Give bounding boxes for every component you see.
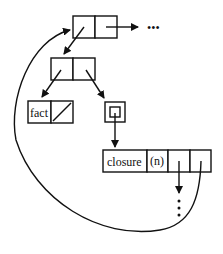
mid-cons-cell bbox=[51, 58, 95, 80]
environment-diagram: ••• fact closure (n) bbox=[0, 0, 223, 254]
arity-label: (n) bbox=[150, 154, 164, 168]
env-back-arrow bbox=[14, 30, 201, 232]
ellipsis-right: ••• bbox=[147, 21, 160, 35]
closure-label: closure bbox=[107, 155, 142, 169]
ellipsis-down bbox=[178, 200, 181, 217]
fact-label: fact bbox=[30, 106, 49, 120]
